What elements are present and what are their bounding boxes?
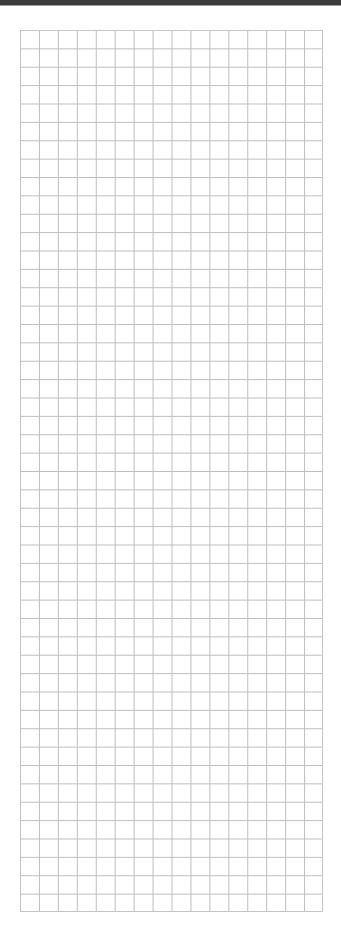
- top-dark-band: [0, 0, 341, 6]
- grid-paper: [20, 30, 323, 912]
